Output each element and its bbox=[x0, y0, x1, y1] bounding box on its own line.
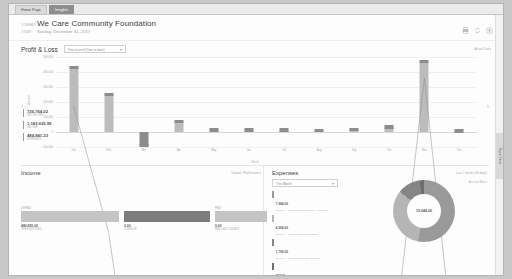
chart-bar-slot[interactable] bbox=[442, 57, 477, 147]
donut-center: 15,044.00 bbox=[407, 194, 441, 228]
chart-bar-slot[interactable] bbox=[231, 57, 266, 147]
chart-data-marker[interactable] bbox=[455, 129, 464, 133]
legend-swatch bbox=[272, 215, 274, 222]
refresh-icon[interactable] bbox=[474, 27, 481, 34]
income-bar[interactable] bbox=[215, 211, 267, 222]
chart-bar-slot[interactable] bbox=[266, 57, 301, 147]
x-axis-labels: JanFebMarAprMayJunJulAugSepOctNovDec bbox=[56, 148, 477, 160]
chart-bar-slot[interactable] bbox=[372, 57, 407, 147]
chart-bar-slot[interactable] bbox=[337, 57, 372, 147]
income-bars: UNPAID480,855.00OPEN INVOICES0.00OVERDUE… bbox=[21, 206, 255, 231]
header-toolbar bbox=[462, 27, 493, 34]
x-axis-title: Month bbox=[33, 161, 477, 164]
chart-bar-slot[interactable] bbox=[126, 57, 161, 147]
legend-item[interactable]: 7,984.0053.07% — Total Professional Fees… bbox=[272, 191, 360, 212]
bottom-panels: Income Unpaid / Paid Invoices UNPAID480,… bbox=[21, 165, 489, 276]
tab-strip: Home Page Insights bbox=[9, 4, 503, 15]
x-axis-tick: May bbox=[196, 148, 231, 160]
x-axis-tick: Dec bbox=[442, 148, 477, 160]
chart-data-marker[interactable] bbox=[174, 120, 183, 124]
chart-data-marker[interactable] bbox=[280, 128, 289, 132]
x-axis-tick: Aug bbox=[302, 148, 337, 160]
legend-item[interactable]: 4,908.0032.63% — Rent or Lease of Buildi… bbox=[272, 215, 360, 236]
y-axis-tick: 200,000 bbox=[43, 101, 53, 104]
profit-loss-bar: Profit & Loss Year-to-end (Year to date)… bbox=[9, 41, 503, 55]
expenses-panel: Expenses Last 7 weeks (30 days) Accrual … bbox=[264, 166, 489, 276]
kpi-label: NET INCOME bbox=[27, 114, 83, 117]
legend-swatch bbox=[272, 263, 274, 270]
tab-home-page[interactable]: Home Page bbox=[15, 5, 47, 14]
report-panel-rail: Report Panel bbox=[495, 15, 503, 275]
chart-data-marker[interactable] bbox=[69, 66, 78, 70]
chart-bar-slot[interactable] bbox=[91, 57, 126, 147]
chart-data-marker[interactable] bbox=[315, 129, 324, 133]
insights-dashboard: Home Page Insights COMPANY We Care Commu… bbox=[8, 3, 504, 276]
chart-data-marker[interactable] bbox=[385, 125, 394, 129]
profit-loss-title: Profit & Loss bbox=[21, 46, 58, 53]
expenses-filter-select[interactable]: This Month bbox=[272, 179, 338, 187]
chart-data-marker[interactable] bbox=[104, 93, 113, 97]
chart-bars bbox=[56, 57, 477, 147]
kpi-item: 484,841.23EXPENSES bbox=[23, 133, 83, 141]
chart-data-marker[interactable] bbox=[209, 128, 218, 132]
settings-icon[interactable] bbox=[486, 27, 493, 34]
income-bar-sublabel: PAID LAST 30 DAYS bbox=[215, 228, 267, 231]
date-row: TODAY Sunday, December 31, 2017 bbox=[21, 28, 503, 34]
legend-description: 11.96% — Job Materials / Job Supplies bbox=[276, 257, 319, 260]
chart-plot-area: Amount 500,000400,000300,000200,000100,0… bbox=[33, 55, 477, 161]
income-panel: Income Unpaid / Paid Invoices UNPAID480,… bbox=[21, 166, 264, 276]
x-axis-tick: Jan bbox=[56, 148, 91, 160]
income-bar[interactable] bbox=[21, 211, 119, 222]
legend-value: 1,799.00 bbox=[276, 250, 288, 254]
kpi-label: EXPENSES bbox=[27, 138, 83, 141]
y-axis-title: Amount bbox=[28, 96, 31, 105]
chart-bar[interactable] bbox=[104, 95, 113, 133]
expenses-link[interactable]: Last 7 weeks (30 days) bbox=[456, 171, 487, 175]
income-title: Income bbox=[21, 170, 255, 176]
legend-value: 4,908.00 bbox=[276, 226, 288, 230]
expenses-legend: 7,984.0053.07% — Total Professional Fees… bbox=[272, 191, 360, 276]
report-panel-tab[interactable]: Report Panel bbox=[496, 133, 504, 179]
income-bar[interactable] bbox=[124, 211, 210, 222]
chart-bar[interactable] bbox=[420, 62, 429, 133]
y-axis-tick: 300,000 bbox=[43, 86, 53, 89]
kpi-item: 726,764.02NET INCOME bbox=[23, 109, 83, 117]
chart-data-marker[interactable] bbox=[139, 144, 148, 148]
x-axis-tick: Jun bbox=[231, 148, 266, 160]
tab-insights[interactable]: Insights bbox=[49, 5, 74, 14]
accrual-basis-label: Accrual Basis bbox=[469, 180, 487, 184]
chart-bar-slot[interactable] bbox=[407, 57, 442, 147]
date-label: TODAY bbox=[21, 30, 37, 34]
chevron-down-icon bbox=[120, 49, 122, 51]
legend-swatch bbox=[272, 191, 274, 198]
x-axis-tick: Apr bbox=[161, 148, 196, 160]
print-icon[interactable] bbox=[462, 27, 469, 34]
income-bar-group[interactable]: 0.00OVERDUE bbox=[124, 210, 210, 231]
period-select[interactable]: Year-to-end (Year to date) bbox=[64, 45, 126, 53]
chart-data-marker[interactable] bbox=[420, 60, 429, 64]
kpi-item: 1,182,635.99INCOME bbox=[23, 121, 83, 129]
report-panel-label: Report Panel bbox=[498, 148, 502, 164]
company-row: COMPANY We Care Community Foundation bbox=[21, 19, 503, 28]
legend-description: 53.07% — Total Professional Fees / Accou… bbox=[276, 209, 329, 212]
chart-bar-slot[interactable] bbox=[161, 57, 196, 147]
x-axis-tick: Sep bbox=[337, 148, 372, 160]
profit-loss-chart: ‹ › Amount 500,000400,000300,000200,0001… bbox=[21, 55, 487, 161]
legend-item[interactable]: 353.002.35% — Utilities bbox=[272, 263, 360, 276]
income-bar-label: UNPAID bbox=[21, 206, 119, 210]
income-bar-group[interactable]: UNPAID480,855.00OPEN INVOICES bbox=[21, 206, 119, 231]
chart-next-button[interactable]: › bbox=[487, 103, 489, 110]
chart-bar-slot[interactable] bbox=[302, 57, 337, 147]
kpi-label: INCOME bbox=[27, 126, 83, 129]
chart-bar-slot[interactable] bbox=[196, 57, 231, 147]
legend-item[interactable]: 1,799.0011.96% — Job Materials / Job Sup… bbox=[272, 239, 360, 260]
x-axis-tick: Nov bbox=[407, 148, 442, 160]
income-bar-sublabel: OVERDUE bbox=[124, 228, 210, 231]
period-select-value: Year-to-end (Year to date) bbox=[68, 48, 105, 52]
chart-data-marker[interactable] bbox=[350, 128, 359, 132]
chart-data-marker[interactable] bbox=[244, 128, 253, 132]
income-bar-group[interactable]: PAID0.00PAID LAST 30 DAYS bbox=[215, 206, 267, 231]
page-title: We Care Community Foundation bbox=[37, 19, 156, 28]
income-bar-label: PAID bbox=[215, 206, 267, 210]
income-link[interactable]: Unpaid / Paid Invoices bbox=[231, 171, 261, 175]
